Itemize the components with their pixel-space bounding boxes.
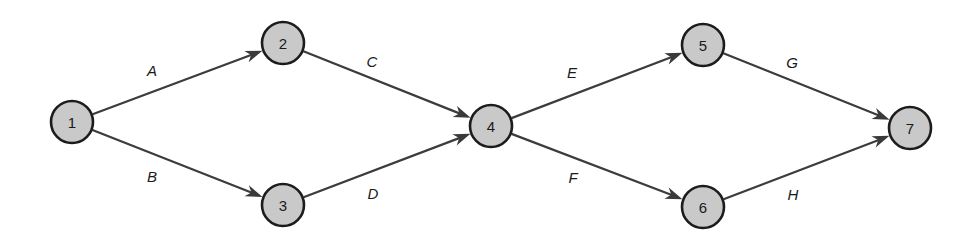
diagram-svg-surface: 1234567 ABCDEFGH: [0, 0, 973, 246]
node-1[interactable]: 1: [51, 101, 93, 143]
node-label: 4: [487, 118, 495, 135]
node-label: 3: [279, 197, 287, 214]
edge-1-to-2: [93, 51, 263, 115]
edge-line: [723, 53, 880, 116]
edge-4-to-6: [512, 134, 683, 199]
edge-label-F: F: [568, 169, 578, 186]
node-5[interactable]: 5: [682, 24, 724, 66]
edge-3-to-4: [304, 134, 471, 197]
edge-line: [512, 56, 674, 118]
node-label: 5: [699, 37, 707, 54]
edge-line: [724, 139, 881, 199]
node-label: 1: [68, 114, 76, 131]
edge-label-G: G: [786, 54, 798, 71]
edge-5-to-7: [723, 53, 889, 120]
nodes-layer: 1234567: [51, 22, 931, 228]
node-3[interactable]: 3: [262, 184, 304, 226]
edge-6-to-7: [724, 136, 890, 199]
edge-label-A: A: [146, 62, 157, 79]
node-label: 6: [699, 199, 707, 216]
node-6[interactable]: 6: [682, 186, 724, 228]
edge-1-to-3: [92, 130, 262, 197]
edge-line: [303, 51, 461, 114]
node-7[interactable]: 7: [889, 107, 931, 149]
edge-line: [304, 137, 462, 197]
node-label: 2: [279, 35, 287, 52]
edge-label-D: D: [368, 185, 379, 202]
edge-line: [512, 134, 674, 196]
node-2[interactable]: 2: [262, 22, 304, 64]
edge-4-to-5: [512, 53, 683, 118]
network-diagram: 1234567 ABCDEFGH: [0, 0, 973, 246]
edge-line: [93, 54, 253, 114]
edge-label-B: B: [147, 168, 157, 185]
node-label: 7: [906, 120, 914, 137]
edge-label-C: C: [367, 53, 378, 70]
node-4[interactable]: 4: [470, 105, 512, 147]
edge-label-E: E: [567, 64, 578, 81]
edge-2-to-4: [303, 51, 470, 118]
edge-label-H: H: [788, 186, 799, 203]
edge-line: [92, 130, 253, 193]
